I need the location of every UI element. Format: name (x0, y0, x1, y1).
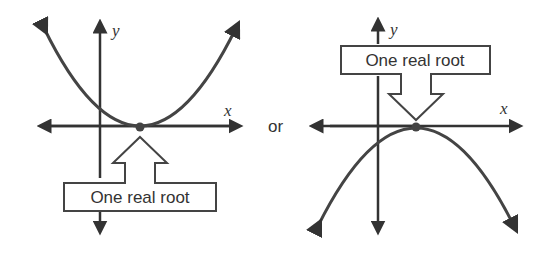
left-root-point (136, 123, 145, 132)
right-parabola (318, 128, 514, 226)
left-parabola (44, 28, 236, 126)
left-graph: y x One real root (44, 21, 236, 228)
left-x-label: x (223, 101, 232, 120)
right-y-label: y (388, 20, 398, 39)
left-callout-text: One real root (90, 188, 189, 207)
diagram-root: y x One real root or y x One real root (0, 0, 544, 254)
right-root-point (412, 123, 421, 132)
or-connector: or (268, 117, 283, 136)
right-x-label: x (499, 99, 508, 118)
right-graph: y x One real root (316, 20, 516, 228)
left-y-label: y (110, 21, 120, 40)
right-callout-text: One real root (365, 51, 464, 70)
